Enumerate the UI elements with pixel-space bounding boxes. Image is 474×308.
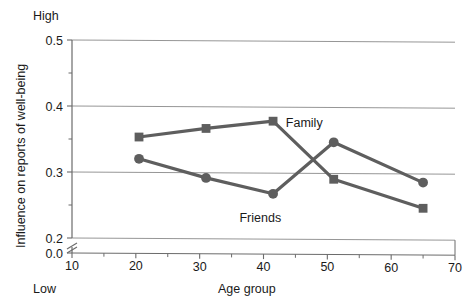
y-axis-high-label: High (33, 10, 59, 23)
x-tick-label-20: 20 (129, 259, 143, 273)
data-point-friends-1 (201, 173, 211, 183)
series-label-family: Family (286, 116, 324, 130)
y-tick-label-0_5: 0.5 (46, 34, 63, 48)
y-tick-label-0_2: 0.2 (46, 232, 63, 246)
data-point-friends-2 (268, 189, 278, 199)
gridline-y-0_4 (72, 106, 455, 108)
series-line-friends (139, 142, 423, 194)
line-chart-canvas: 0.00.20.30.40.510203040506070FamilyFrien… (0, 0, 474, 308)
data-point-family-2 (269, 117, 278, 126)
x-tick-label-50: 50 (320, 260, 334, 274)
data-point-friends-4 (418, 178, 428, 188)
data-point-friends-3 (329, 137, 339, 147)
series-label-friends: Friends (239, 211, 281, 225)
gridline-y-0_5 (72, 40, 455, 42)
data-point-family-1 (202, 124, 211, 133)
gridline-y-0_2 (72, 238, 455, 240)
y-tick-label-0_4: 0.4 (46, 100, 63, 114)
y-axis-low-label: Low (33, 283, 56, 296)
y-tick-label-0_3: 0.3 (46, 166, 63, 180)
data-point-family-3 (329, 175, 338, 184)
data-point-friends-0 (134, 154, 144, 164)
x-tick-label-10: 10 (65, 259, 79, 273)
chart-container: 0.00.20.30.40.510203040506070FamilyFrien… (0, 0, 474, 308)
data-point-family-4 (419, 204, 428, 213)
x-tick-label-70: 70 (448, 261, 462, 275)
y-tick-label-0: 0.0 (46, 247, 63, 261)
x-tick-label-60: 60 (384, 261, 398, 275)
x-axis-title: Age group (218, 283, 276, 296)
x-tick-label-40: 40 (257, 260, 271, 274)
series-friends (134, 137, 428, 198)
y-axis-title: Influence on reports of well-being (15, 64, 28, 248)
data-point-family-0 (135, 133, 144, 142)
x-tick-label-30: 30 (193, 260, 207, 274)
